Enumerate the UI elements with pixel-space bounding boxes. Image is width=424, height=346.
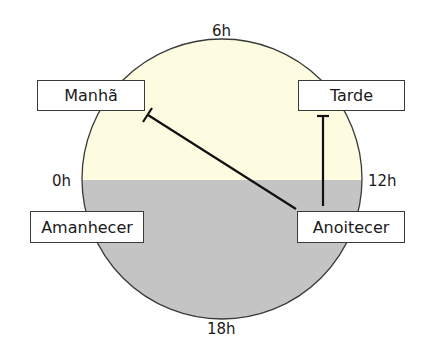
label-box-tarde: Tarde	[298, 80, 405, 111]
hour-label-6h: 6h	[212, 22, 231, 40]
label-box-anoitecer: Anoitecer	[297, 211, 405, 243]
label-box-manha: Manhã	[37, 80, 145, 111]
hour-label-0h: 0h	[52, 172, 71, 190]
hour-label-12h: 12h	[368, 172, 397, 190]
hour-label-18h: 18h	[207, 320, 236, 338]
label-box-amanhecer: Amanhecer	[30, 211, 144, 243]
